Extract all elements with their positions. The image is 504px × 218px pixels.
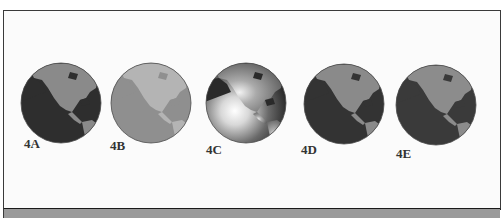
globe-4e-icon [395,64,477,146]
bottom-bar [3,209,500,218]
label-4b: 4B [110,138,125,154]
label-4c: 4C [206,142,222,158]
globe-4a-icon [20,62,102,144]
globe-4b-icon [110,62,192,144]
globe-4d-icon [303,63,385,145]
globe-4c-icon [205,62,287,144]
label-4d: 4D [301,142,317,158]
label-4a: 4A [24,136,40,152]
label-4e: 4E [396,146,411,162]
